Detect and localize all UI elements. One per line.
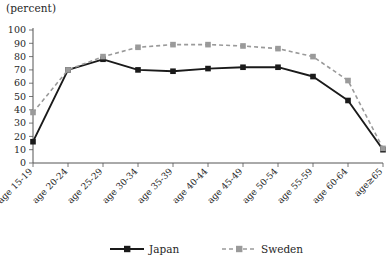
data-point-marker	[205, 66, 211, 72]
data-point-marker	[170, 42, 176, 48]
data-point-marker	[30, 110, 36, 116]
data-point-marker	[380, 146, 386, 152]
data-point-marker	[240, 43, 246, 49]
legend-swatch-marker	[236, 246, 242, 252]
labor-force-participation-chart: (percent) 0102030405060708090100 age 15-…	[0, 0, 391, 267]
y-axis-tick-label: 40	[14, 104, 26, 115]
y-axis-ticks: 0102030405060708090100	[8, 24, 33, 168]
data-point-marker	[275, 46, 281, 52]
data-point-marker	[170, 68, 176, 74]
y-axis-tick-label: 10	[14, 144, 26, 155]
data-point-marker	[240, 64, 246, 70]
data-series-layer	[30, 42, 386, 153]
data-point-marker	[100, 54, 106, 60]
x-axis-tick-label: age 50-54	[240, 166, 279, 205]
series-line-sweden	[33, 45, 383, 149]
x-axis-tick-label: age 20-24	[30, 166, 69, 205]
x-axis-tick-label: age 25-29	[65, 166, 104, 205]
data-point-marker	[135, 67, 141, 73]
data-point-marker	[30, 139, 36, 145]
data-point-marker	[345, 98, 351, 104]
x-axis-tick-label: age 30-34	[100, 166, 139, 205]
chart-canvas: 0102030405060708090100 age 15-19age 20-2…	[0, 0, 391, 267]
x-axis-ticks	[33, 163, 383, 167]
chart-legend: JapanSweden	[110, 243, 303, 255]
x-axis-tick-label: age 15-19	[0, 166, 35, 205]
axis-lines	[33, 28, 383, 163]
data-point-marker	[345, 78, 351, 84]
legend-label-sweden: Sweden	[261, 243, 303, 255]
y-axis-tick-label: 20	[14, 131, 26, 142]
y-axis-tick-label: 30	[14, 117, 26, 128]
x-axis-labels: age 15-19age 20-24age 25-29age 30-34age …	[0, 166, 385, 205]
legend-label-japan: Japan	[148, 243, 179, 255]
x-axis-tick-label: age 35-39	[135, 166, 174, 205]
y-axis-tick-label: 50	[14, 91, 26, 102]
legend-swatch-marker	[124, 246, 130, 252]
data-point-marker	[310, 74, 316, 80]
y-axis-tick-label: 70	[14, 64, 26, 75]
x-axis-tick-label: age≥65	[352, 166, 384, 198]
y-axis-tick-label: 90	[14, 38, 26, 49]
series-line-japan	[33, 59, 383, 149]
y-axis-tick-label: 100	[8, 24, 26, 35]
y-axis-tick-label: 0	[20, 157, 26, 168]
y-axis-tick-label: 80	[14, 51, 26, 62]
data-point-marker	[275, 64, 281, 70]
x-axis-tick-label: age 40-44	[170, 166, 209, 205]
x-axis-tick-label: age 45-49	[205, 166, 244, 205]
y-axis-tick-label: 60	[14, 77, 26, 88]
data-point-marker	[205, 42, 211, 48]
x-axis-tick-label: age 60-64	[310, 166, 349, 205]
data-point-marker	[65, 67, 71, 73]
data-point-marker	[135, 44, 141, 50]
data-point-marker	[310, 54, 316, 60]
x-axis-tick-label: age 55-59	[275, 166, 314, 205]
